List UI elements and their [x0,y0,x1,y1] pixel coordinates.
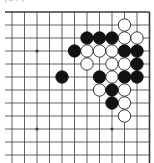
white-stone [81,45,93,57]
white-stone [118,110,130,122]
white-stone [118,97,130,109]
white-stone [106,45,118,57]
white-stone [118,19,130,31]
black-stone [106,32,118,44]
black-stone [93,32,105,44]
black-stone [106,84,118,96]
star-point [35,127,38,130]
white-stone [93,84,105,96]
star-point [35,49,38,52]
black-stone [81,32,93,44]
star-point [110,127,113,130]
black-stone [106,97,118,109]
white-stone [93,45,105,57]
black-stone [131,71,143,83]
white-stone [106,71,118,83]
white-stone [118,58,130,70]
black-stone [68,45,80,57]
white-stone [118,84,130,96]
black-stone [93,71,105,83]
white-stone [81,58,93,70]
black-stone [56,71,68,83]
black-stone [131,58,143,70]
white-stone [131,32,143,44]
go-board [0,0,154,163]
black-stone [118,71,130,83]
white-stone [118,32,130,44]
black-stone [131,45,143,57]
white-stone [106,58,118,70]
go-diagram: (67) [0,0,154,163]
black-stone [118,45,130,57]
